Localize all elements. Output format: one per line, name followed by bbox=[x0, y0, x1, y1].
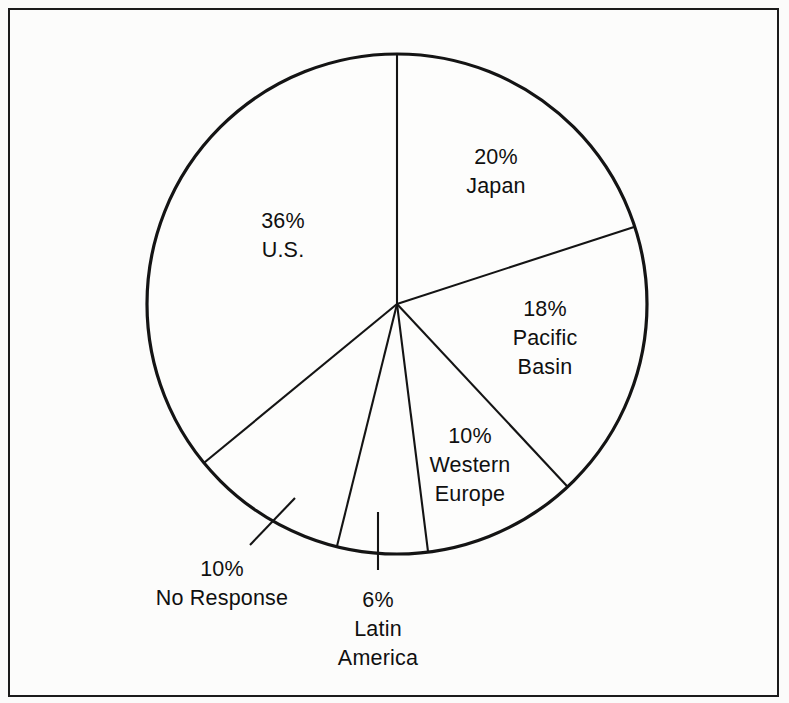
japan-percent: 20% bbox=[474, 145, 518, 169]
western-europe-name-line1: Western bbox=[429, 453, 510, 477]
slice-label-latin-america: 6% Latin America bbox=[338, 588, 418, 670]
latin-america-percent: 6% bbox=[362, 588, 393, 612]
western-europe-percent: 10% bbox=[448, 424, 492, 448]
pacific-basin-percent: 18% bbox=[523, 297, 567, 321]
us-name: U.S. bbox=[262, 238, 305, 262]
us-percent: 36% bbox=[261, 209, 305, 233]
latin-america-name-line2: America bbox=[338, 646, 418, 670]
no-response-name: No Response bbox=[156, 586, 288, 610]
pie-chart: 20% Japan 36% U.S. 18% Pacific Basin 10%… bbox=[0, 0, 789, 703]
western-europe-name-line2: Europe bbox=[435, 482, 506, 506]
latin-america-name-line1: Latin bbox=[354, 617, 402, 641]
no-response-percent: 10% bbox=[200, 557, 244, 581]
figure-root: 20% Japan 36% U.S. 18% Pacific Basin 10%… bbox=[0, 0, 789, 703]
slice-label-no-response: 10% No Response bbox=[156, 557, 288, 610]
japan-name: Japan bbox=[466, 174, 526, 198]
pacific-basin-name-line2: Basin bbox=[518, 355, 573, 379]
pacific-basin-name-line1: Pacific bbox=[513, 326, 578, 350]
